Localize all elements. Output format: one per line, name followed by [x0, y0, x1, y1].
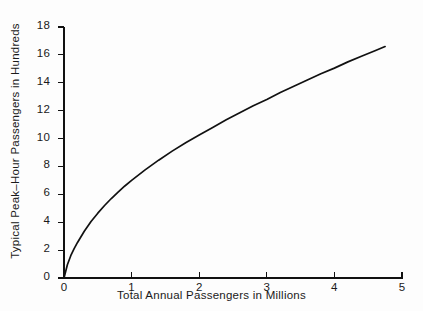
data-line-0 — [64, 47, 385, 278]
y-tick-label: 0 — [28, 270, 50, 282]
y-tick-label: 18 — [28, 19, 50, 31]
y-tick-label: 6 — [28, 186, 50, 198]
chart-figure: Typical Peak–Hour Passengers in Hundreds… — [0, 0, 423, 311]
y-tick-label: 16 — [28, 47, 50, 59]
y-axis-label-container: Typical Peak–Hour Passengers in Hundreds — [0, 0, 30, 290]
plot-area — [0, 0, 423, 311]
y-tick-label: 14 — [28, 75, 50, 87]
x-tick-label: 4 — [324, 281, 344, 293]
y-tick-label: 8 — [28, 158, 50, 170]
y-tick-label: 10 — [28, 131, 50, 143]
y-axis-label: Typical Peak–Hour Passengers in Hundreds — [9, 16, 21, 266]
x-tick-label: 3 — [257, 281, 277, 293]
x-tick-label: 0 — [54, 281, 74, 293]
y-tick-label: 2 — [28, 242, 50, 254]
y-tick-label: 12 — [28, 103, 50, 115]
y-tick-label: 4 — [28, 214, 50, 226]
x-tick-label: 5 — [392, 281, 412, 293]
x-tick-label: 1 — [122, 281, 142, 293]
x-tick-label: 2 — [189, 281, 209, 293]
